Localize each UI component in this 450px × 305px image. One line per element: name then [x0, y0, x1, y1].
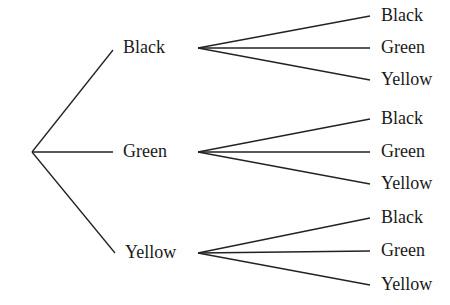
node-label-level1: Yellow	[125, 242, 176, 262]
branch-line-level2	[198, 152, 370, 184]
branch-line-level2	[198, 251, 370, 253]
node-label-level2: Green	[381, 240, 425, 260]
node-label-level2: Yellow	[381, 173, 432, 193]
branch-line-level1	[32, 152, 115, 253]
branch-line-level2	[198, 119, 370, 152]
node-label-level2: Green	[381, 37, 425, 57]
node-label-level2: Black	[381, 108, 423, 128]
node-label-level1: Black	[123, 37, 165, 57]
branch-line-level2	[198, 218, 370, 253]
branch-line-level2	[198, 16, 370, 48]
branch-line-level2	[198, 48, 370, 80]
branch-line-level1	[32, 50, 113, 152]
branch-line-level2	[198, 253, 370, 285]
node-label-level2: Black	[381, 207, 423, 227]
node-label-level2: Black	[381, 5, 423, 25]
node-label-level1: Green	[123, 141, 167, 161]
node-label-level2: Green	[381, 141, 425, 161]
node-label-level2: Yellow	[381, 69, 432, 89]
node-label-level2: Yellow	[381, 274, 432, 294]
